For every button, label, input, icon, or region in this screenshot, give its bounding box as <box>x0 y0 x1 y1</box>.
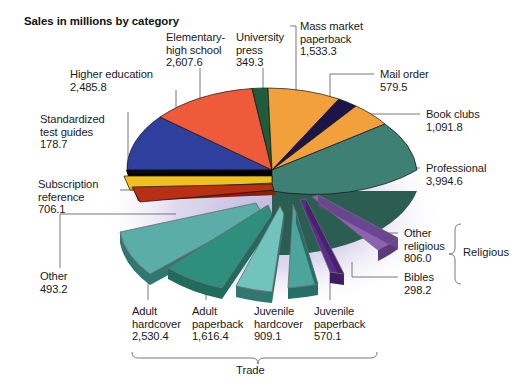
label-mass-market-value: 1,533.3 <box>300 45 363 58</box>
label-mail-order-value: 579.5 <box>380 81 429 94</box>
label-juvenile-hardcover-line2: hardcover <box>254 318 303 331</box>
label-adult-paperback: Adult paperback 1,616.4 <box>192 305 243 343</box>
label-juvenile-hardcover-value: 909.1 <box>254 330 303 343</box>
label-higher-education: Higher education 2,485.8 <box>70 68 153 93</box>
label-juvenile-paperback-value: 570.1 <box>314 330 365 343</box>
label-other-value: 493.2 <box>40 283 68 296</box>
label-other-religious-value: 806.0 <box>404 252 445 265</box>
label-mass-market-paperback: Mass market paperback 1,533.3 <box>300 20 363 58</box>
label-standardized-test-guides: Standardized test guides 178.7 <box>40 113 105 151</box>
group-label-trade: Trade <box>236 364 265 376</box>
label-higher-education-value: 2,485.8 <box>70 81 153 94</box>
label-adult-hardcover-value: 2,530.4 <box>132 330 181 343</box>
label-mail-order: Mail order 579.5 <box>380 68 429 93</box>
label-professional-name: Professional <box>426 162 486 175</box>
label-mail-order-name: Mail order <box>380 68 429 81</box>
label-elementary-line2: high school <box>166 44 225 57</box>
label-book-clubs: Book clubs 1,091.8 <box>426 108 480 133</box>
bracket-trade <box>132 352 377 364</box>
label-subscription-reference: Subscription reference 706.1 <box>38 178 98 216</box>
label-adult-paperback-value: 1,616.4 <box>192 330 243 343</box>
label-adult-hardcover: Adult hardcover 2,530.4 <box>132 305 181 343</box>
label-other: Other 493.2 <box>40 270 68 295</box>
label-elementary-line1: Elementary- <box>166 31 225 44</box>
label-university-press-line2: press <box>236 44 284 57</box>
label-juvenile-hardcover: Juvenile hardcover 909.1 <box>254 305 303 343</box>
label-higher-education-name: Higher education <box>70 68 153 81</box>
page-title: Sales in millions by category <box>24 15 179 27</box>
label-mass-market-line2: paperback <box>300 33 363 46</box>
label-juvenile-paperback-line1: Juvenile <box>314 305 365 318</box>
label-elementary-value: 2,607.6 <box>166 56 225 69</box>
label-professional: Professional 3,994.6 <box>426 162 486 187</box>
group-label-religious: Religious <box>463 246 509 258</box>
label-book-clubs-value: 1,091.8 <box>426 121 480 134</box>
label-standardized-value: 178.7 <box>40 138 105 151</box>
label-mass-market-line1: Mass market <box>300 20 363 33</box>
label-standardized-line2: test guides <box>40 126 105 139</box>
label-subscription-value: 706.1 <box>38 203 98 216</box>
label-adult-hardcover-line2: hardcover <box>132 318 181 331</box>
label-other-religious-line2: religious <box>404 240 445 253</box>
chart-canvas: Sales in millions by category Higher edu… <box>0 0 529 387</box>
label-adult-paperback-line2: paperback <box>192 318 243 331</box>
label-bibles: Bibles 298.2 <box>404 271 434 296</box>
label-university-press-line1: University <box>236 31 284 44</box>
label-other-religious-line1: Other <box>404 227 445 240</box>
label-elementary-high-school: Elementary- high school 2,607.6 <box>166 31 225 69</box>
label-subscription-line1: Subscription <box>38 178 98 191</box>
label-other-name: Other <box>40 270 68 283</box>
label-juvenile-hardcover-line1: Juvenile <box>254 305 303 318</box>
label-adult-paperback-line1: Adult <box>192 305 243 318</box>
label-juvenile-paperback: Juvenile paperback 570.1 <box>314 305 365 343</box>
label-standardized-line1: Standardized <box>40 113 105 126</box>
label-subscription-line2: reference <box>38 191 98 204</box>
label-university-press: University press 349.3 <box>236 31 284 69</box>
label-other-religious: Other religious 806.0 <box>404 227 445 265</box>
label-book-clubs-name: Book clubs <box>426 108 480 121</box>
label-university-press-value: 349.3 <box>236 56 284 69</box>
label-bibles-value: 298.2 <box>404 284 434 297</box>
label-professional-value: 3,994.6 <box>426 175 486 188</box>
bracket-religious <box>449 224 461 284</box>
label-adult-hardcover-line1: Adult <box>132 305 181 318</box>
label-juvenile-paperback-line2: paperback <box>314 318 365 331</box>
label-bibles-name: Bibles <box>404 271 434 284</box>
